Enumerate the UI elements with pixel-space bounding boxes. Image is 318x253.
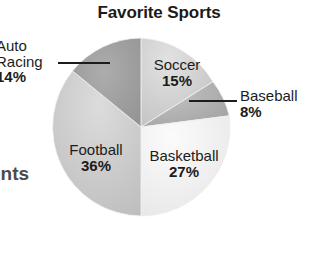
slice-label-soccer-name: Soccer	[141, 57, 213, 73]
slice-label-football-name: Football	[58, 142, 134, 158]
slice-label-basketball: Basketball 27%	[133, 148, 235, 179]
slice-label-auto-racing-line2: Racing	[0, 54, 43, 70]
slice-value-auto-racing: 14%	[0, 69, 43, 85]
slice-value-football: 36%	[58, 158, 134, 174]
slice-value-baseball: 8%	[240, 104, 298, 120]
page-title: Favorite Sports	[0, 3, 318, 23]
slice-value-basketball: 27%	[133, 164, 235, 180]
slice-label-baseball: Baseball 8%	[240, 88, 298, 119]
slice-label-soccer: Soccer 15%	[141, 57, 213, 88]
slice-label-basketball-name: Basketball	[133, 148, 235, 164]
slice-label-football: Football 36%	[58, 142, 134, 173]
slice-label-auto-racing-line1: Auto	[0, 38, 43, 54]
slice-label-baseball-name: Baseball	[240, 88, 298, 104]
chart-screenshot: Favorite Sports ents	[0, 0, 318, 253]
slice-value-soccer: 15%	[141, 73, 213, 89]
clipped-neighbor-text: ents	[0, 163, 29, 185]
leader-line-baseball	[189, 100, 237, 102]
leader-line-auto-racing	[58, 62, 110, 64]
slice-label-auto-racing: Auto Racing 14%	[0, 38, 43, 85]
